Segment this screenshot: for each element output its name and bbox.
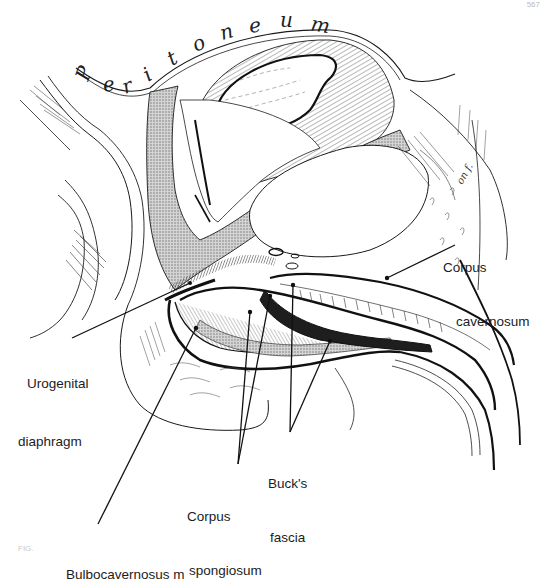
artist-signature: on f. — [454, 161, 475, 186]
label-corpus-cavernosum-line1: Corpus — [443, 259, 530, 277]
label-corpus-spongiosum-line2: spongiosum — [189, 562, 262, 580]
label-bucks-fascia-line1: Buck's — [268, 475, 307, 493]
label-corpus-cavernosum: Corpus cavernosum — [443, 223, 530, 349]
leader-bucks-fascia-2 — [290, 285, 293, 432]
label-bulbocavernosus-line1: Bulbocavernosus m — [66, 566, 185, 583]
label-urogenital-diaphragm-line2: diaphragm — [18, 433, 89, 451]
figure-caption-fragment: FIG. — [18, 544, 34, 553]
label-bucks-fascia: Buck's fascia — [268, 439, 307, 565]
svg-text:t: t — [163, 45, 183, 70]
svg-text:m: m — [309, 11, 332, 38]
label-urogenital-diaphragm-line1: Urogenital — [27, 375, 89, 393]
label-bulbocavernosus: Bulbocavernosus m — [66, 530, 185, 583]
label-corpus-cavernosum-line2: cavernosum — [456, 313, 530, 331]
svg-text:e: e — [247, 13, 262, 38]
svg-text:n: n — [217, 18, 236, 45]
label-urogenital-diaphragm: Urogenital diaphragm — [18, 339, 89, 469]
label-corpus-spongiosum: Corpus spongiosum — [187, 472, 262, 583]
svg-text:i: i — [139, 62, 157, 86]
label-corpus-spongiosum-line1: Corpus — [187, 508, 262, 526]
svg-text:u: u — [280, 8, 293, 32]
label-bucks-fascia-line2: fascia — [270, 529, 307, 547]
